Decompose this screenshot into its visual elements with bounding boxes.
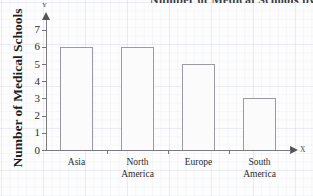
x-tick-3 — [290, 150, 291, 154]
y-tick-5 — [42, 64, 47, 65]
y-axis-line — [46, 19, 47, 150]
x-tick-0 — [107, 150, 108, 154]
y-tick-label-6: 6 — [28, 41, 40, 52]
y-tick-label-4: 4 — [28, 76, 40, 87]
x-tick-1 — [168, 150, 169, 154]
category-label-south-america: SouthAmerica — [229, 157, 290, 180]
x-tick-2 — [229, 150, 230, 154]
bar-asia — [60, 47, 93, 150]
y-tick-2 — [42, 116, 47, 117]
y-tick-0 — [42, 150, 47, 151]
category-label-line: Asia — [46, 157, 107, 169]
bar-chart-screenshot: Number of Medical Schools by Continent N… — [0, 0, 313, 196]
y-tick-7 — [42, 30, 47, 31]
y-tick-label-0: 0 — [28, 145, 40, 156]
x-axis-arrow-icon — [290, 146, 298, 154]
bar-north-america — [121, 47, 154, 150]
y-tick-label-2: 2 — [28, 110, 40, 121]
y-tick-label-5: 5 — [28, 59, 40, 70]
category-label-asia: Asia — [46, 157, 107, 169]
y-tick-label-3: 3 — [28, 93, 40, 104]
category-label-europe: Europe — [168, 157, 229, 169]
y-tick-4 — [42, 81, 47, 82]
y-axis-letter: Y — [42, 1, 47, 9]
category-label-line: America — [229, 169, 290, 181]
x-axis-letter: X — [300, 145, 305, 154]
bar-south-america — [243, 98, 276, 150]
y-tick-1 — [42, 133, 47, 134]
category-label-line: South — [229, 157, 290, 169]
category-label-line: America — [107, 169, 168, 181]
y-tick-label-1: 1 — [28, 127, 40, 138]
category-label-line: North — [107, 157, 168, 169]
category-label-line: Europe — [168, 157, 229, 169]
plot-area: Y X 01234567 AsiaNorthAmericaEuropeSouth… — [0, 0, 313, 196]
y-tick-3 — [42, 98, 47, 99]
bar-europe — [182, 64, 215, 150]
y-tick-label-7: 7 — [28, 24, 40, 35]
y-tick-6 — [42, 47, 47, 48]
y-axis-arrow-icon — [42, 12, 50, 20]
category-label-north-america: NorthAmerica — [107, 157, 168, 180]
